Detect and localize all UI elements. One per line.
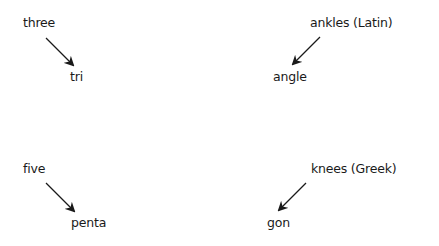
arrow-five-to-penta-icon bbox=[46, 183, 74, 211]
target-word-angle: angle bbox=[273, 71, 307, 84]
arrows-layer bbox=[0, 0, 439, 246]
source-word-knees-greek: knees (Greek) bbox=[311, 163, 396, 176]
arrow-ankles-to-angle-icon bbox=[293, 37, 320, 64]
arrow-three-to-tri-icon bbox=[46, 38, 73, 65]
source-word-five: five bbox=[23, 163, 45, 176]
arrow-knees-to-gon-icon bbox=[279, 183, 306, 210]
target-word-penta: penta bbox=[71, 217, 106, 230]
etymology-diagram: three tri ankles (Latin) angle five pent… bbox=[0, 0, 439, 246]
target-word-gon: gon bbox=[267, 217, 290, 230]
source-word-three: three bbox=[23, 17, 55, 30]
source-word-ankles-latin: ankles (Latin) bbox=[310, 17, 392, 30]
target-word-tri: tri bbox=[70, 71, 83, 84]
